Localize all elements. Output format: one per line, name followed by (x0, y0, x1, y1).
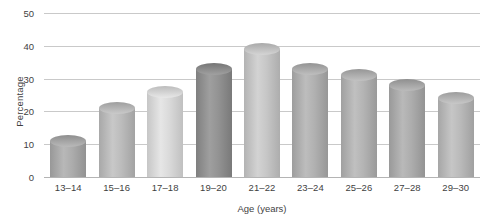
bar-slot (337, 13, 381, 177)
bar-body (341, 75, 377, 177)
bar-slot (46, 13, 90, 177)
bar-body (292, 69, 328, 177)
x-axis-tick-label: 27–28 (385, 182, 429, 193)
bar[interactable] (292, 63, 328, 177)
bar-body (147, 92, 183, 177)
x-axis-title: Age (years) (44, 203, 480, 214)
bar-slot (95, 13, 139, 177)
bar-top-ellipse (292, 63, 328, 75)
y-axis-tick-label: 50 (4, 8, 34, 19)
x-axis-tick-label: 23–24 (288, 182, 332, 193)
bar[interactable] (196, 63, 232, 177)
bar[interactable] (50, 135, 86, 177)
bar-top-ellipse (99, 102, 135, 114)
bar-slot (192, 13, 236, 177)
bar-top-ellipse (244, 43, 280, 55)
x-axis-tick-labels: 13–1415–1617–1819–2021–2223–2425–2627–28… (44, 182, 480, 193)
bar-body (196, 69, 232, 177)
x-axis-tick-label: 15–16 (95, 182, 139, 193)
bar-slot (288, 13, 332, 177)
x-axis-tick-label: 19–20 (192, 182, 236, 193)
bars-layer (44, 13, 480, 177)
x-axis-tick-label: 13–14 (46, 182, 90, 193)
y-axis-tick-label: 10 (4, 139, 34, 150)
bar[interactable] (244, 43, 280, 177)
x-axis-tick-label: 25–26 (337, 182, 381, 193)
x-axis-tick-label: 17–18 (143, 182, 187, 193)
bar-slot (143, 13, 187, 177)
bar-top-ellipse (50, 135, 86, 147)
bar[interactable] (438, 92, 474, 177)
bar-body (438, 98, 474, 177)
y-axis-tick-label: 0 (4, 172, 34, 183)
y-axis-tick-label: 30 (4, 73, 34, 84)
bar-slot (434, 13, 478, 177)
bar-top-ellipse (196, 63, 232, 75)
bar[interactable] (341, 69, 377, 177)
y-axis-tick-label: 40 (4, 40, 34, 51)
x-axis-tick-label: 29–30 (434, 182, 478, 193)
x-axis-tick-label: 21–22 (240, 182, 284, 193)
bar[interactable] (99, 102, 135, 177)
bar-slot (240, 13, 284, 177)
plot-area: 01020304050 (44, 13, 480, 177)
bar[interactable] (147, 86, 183, 177)
bar-slot (385, 13, 429, 177)
y-axis-tick-label: 20 (4, 106, 34, 117)
bar-body (244, 49, 280, 177)
bar-top-ellipse (147, 86, 183, 98)
bar-body (389, 85, 425, 177)
bar-body (99, 108, 135, 177)
bar[interactable] (389, 79, 425, 177)
bar-chart: Percentage 01020304050 13–1415–1617–1819… (0, 0, 484, 223)
axis-baseline (44, 177, 480, 178)
